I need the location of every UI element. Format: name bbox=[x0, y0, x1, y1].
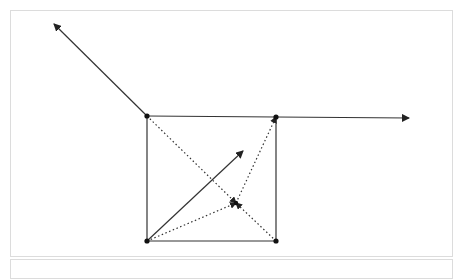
arrow-right bbox=[276, 117, 409, 118]
square-edge bbox=[147, 116, 276, 117]
dotted-from-bottom-right-arrow bbox=[236, 203, 276, 241]
arrow-up-left bbox=[54, 24, 147, 116]
vertex-top-left bbox=[144, 113, 149, 118]
dotted-to-top-right-arrow bbox=[236, 117, 276, 203]
dotted-from-top-left-arrow bbox=[147, 116, 236, 203]
focal-dot bbox=[234, 201, 238, 205]
vertex-bottom-right bbox=[273, 238, 278, 243]
focal-point bbox=[234, 201, 238, 205]
dotted-from-bottom-left-arrow bbox=[147, 203, 236, 241]
solid-arrows bbox=[54, 24, 409, 241]
vertex-top-right bbox=[273, 114, 278, 119]
vertex-bottom-left bbox=[144, 238, 149, 243]
arrow-diagonal bbox=[147, 151, 243, 241]
